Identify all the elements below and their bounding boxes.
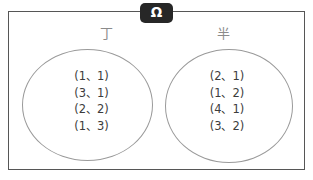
set-label-left: 丁 xyxy=(41,26,172,42)
set-group-left: 丁 (1、1) (3、1) (2、2) (1、3) xyxy=(22,26,153,162)
set-members-right: (2、1) (1、2) (4、1) (3、2) xyxy=(163,68,291,134)
set-member: (1、1) xyxy=(74,68,109,85)
omega-icon: Ω xyxy=(151,6,162,20)
set-member: (3、2) xyxy=(210,118,245,135)
set-member: (4、1) xyxy=(210,101,245,118)
set-member: (1、3) xyxy=(74,118,109,135)
set-group-right: 半 (2、1) (1、2) (4、1) (3、2) xyxy=(165,26,293,164)
set-member: (2、1) xyxy=(210,68,245,85)
set-member: (1、2) xyxy=(210,85,245,102)
universal-set-badge: Ω xyxy=(140,3,173,23)
set-member: (2、2) xyxy=(74,101,109,118)
set-label-right: 半 xyxy=(160,26,288,42)
venn-diagram-canvas: Ω 丁 (1、1) (3、1) (2、2) (1、3) 半 (2、1) (1、2… xyxy=(0,0,313,180)
set-members-left: (1、1) (3、1) (2、2) (1、3) xyxy=(26,68,157,134)
set-member: (3、1) xyxy=(74,85,109,102)
